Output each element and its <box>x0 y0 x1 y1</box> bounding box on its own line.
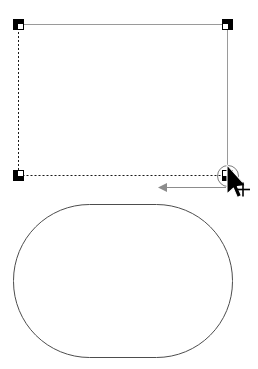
handle-bottom-left-inner-notch <box>18 171 23 176</box>
arrow-pointer-cursor <box>227 165 250 197</box>
drag-direction-arrow <box>158 183 226 192</box>
drag-direction-arrow-head <box>158 183 167 192</box>
vector-illustration <box>0 0 258 369</box>
illustration-canvas: Rounded-rectangle corner-radius drag ill… <box>0 0 258 369</box>
rounded-rectangle-result[interactable] <box>14 205 233 358</box>
handle-top-right-inner-notch <box>223 24 228 29</box>
selection-handles[interactable] <box>13 19 233 181</box>
handle-top-left-inner-notch <box>18 24 23 29</box>
selection-bounding-box <box>19 24 229 176</box>
